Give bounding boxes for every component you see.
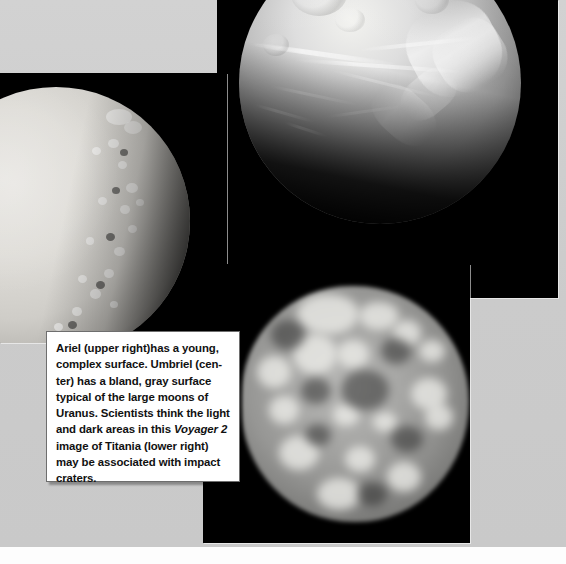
figure-page: Ariel (upper right)has a young, complex … bbox=[0, 0, 566, 564]
caption-segment-1: Ariel (upper right)has a young, complex … bbox=[56, 342, 230, 435]
umbriel-moon-disc bbox=[0, 87, 190, 343]
caption-segment-italic: Voyager 2 bbox=[174, 423, 227, 435]
caption-box: Ariel (upper right)has a young, complex … bbox=[46, 331, 240, 482]
umbriel-photo bbox=[0, 73, 227, 343]
ariel-photo bbox=[217, 0, 558, 298]
titania-photo bbox=[203, 264, 470, 543]
titania-moon-disc bbox=[241, 286, 469, 522]
page-bottom-strip bbox=[0, 547, 566, 564]
caption-segment-3: image of Titania (lower right) may be as… bbox=[56, 440, 220, 485]
ariel-moon-disc bbox=[239, 0, 521, 224]
caption-text: Ariel (upper right)has a young, complex … bbox=[56, 340, 230, 487]
